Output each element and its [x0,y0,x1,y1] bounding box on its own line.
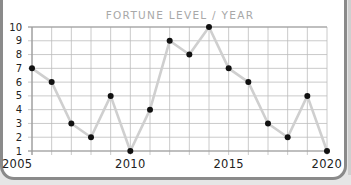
data-point [108,93,114,99]
data-point [49,79,55,85]
data-point [324,148,330,154]
y-tick-label: 7 [16,63,22,74]
y-tick-label: 4 [16,104,22,115]
data-point [245,79,251,85]
y-tick-label: 6 [16,77,22,88]
data-point [304,93,310,99]
line-chart: FORTUNE LEVEL / YEAR 12345678910 2005201… [0,0,351,185]
y-tick-label: 3 [16,118,22,129]
data-point [68,120,74,126]
x-axis-ticks: 2005201020152020 [2,157,342,171]
y-tick-label: 8 [16,49,22,60]
data-point [265,120,271,126]
data-point [29,65,35,71]
y-axis-ticks: 12345678910 [9,22,22,157]
x-tick-label: 2015 [213,157,243,171]
data-point [226,65,232,71]
data-point [186,52,192,58]
data-point [147,107,153,113]
fortune-line [32,27,327,151]
x-tick-label: 2010 [115,157,145,171]
y-tick-label: 1 [16,146,22,157]
y-tick-label: 9 [16,35,22,46]
chart-title: FORTUNE LEVEL / YEAR [106,9,255,21]
data-point [127,148,133,154]
data-point [88,134,94,140]
x-tick-label: 2005 [2,157,32,171]
data-point [285,134,291,140]
data-point [206,24,212,30]
x-tick-label: 2020 [312,157,342,171]
data-point [167,38,173,44]
y-tick-label: 10 [9,22,22,33]
y-tick-label: 5 [16,90,22,101]
y-tick-label: 2 [16,132,22,143]
